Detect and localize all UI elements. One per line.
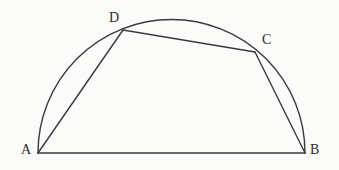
vertex-label-a: A [21, 143, 31, 157]
vertex-label-c: C [262, 33, 271, 47]
geometry-figure: A B C D [0, 0, 339, 170]
segment-cb-chord [255, 52, 305, 153]
segment-dc-chord [123, 30, 255, 52]
vertex-label-b: B [310, 143, 319, 157]
segment-ad-chord [38, 30, 123, 153]
vertex-label-d: D [109, 11, 119, 25]
geometry-canvas [0, 0, 339, 170]
